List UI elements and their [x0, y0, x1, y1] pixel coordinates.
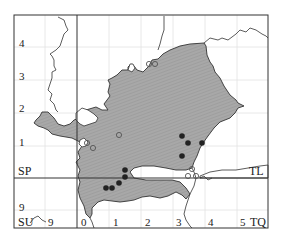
- x-tick-4: 4: [208, 217, 214, 228]
- square-label-tq: TQ: [250, 216, 266, 228]
- square-label-tl: TL: [249, 165, 264, 177]
- x-tick-2: 2: [145, 217, 151, 228]
- y-tick-3: 3: [19, 71, 25, 82]
- y-tick-2: 2: [19, 103, 25, 114]
- y-tick-1: 1: [19, 137, 25, 148]
- y-tick-9: 9: [19, 202, 25, 213]
- x-tick-0: 0: [81, 217, 87, 228]
- square-label-sp: SP: [18, 165, 31, 177]
- x-tick-5: 5: [240, 217, 246, 228]
- y-tick-4: 4: [19, 38, 25, 49]
- x-tick-3: 3: [176, 217, 182, 228]
- x-tick-9: 9: [48, 217, 54, 228]
- distribution-map: [0, 0, 283, 240]
- x-tick-1: 1: [113, 217, 119, 228]
- square-label-su: SU: [18, 216, 33, 228]
